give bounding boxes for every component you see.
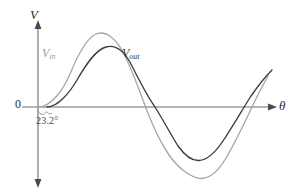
vertical-axis-label: V <box>30 8 38 21</box>
axis-arrow-down-icon <box>35 179 42 188</box>
phase-shift-brace <box>38 111 52 115</box>
series-label-vout-subscript: out <box>129 52 139 61</box>
curve-vout <box>47 46 272 160</box>
plot-canvas <box>0 0 295 195</box>
vertical-axis <box>35 20 42 188</box>
series-label-vout: Vout <box>122 47 139 59</box>
phase-shift-waveform-figure: V θ 0 Vin Vout 23.2° <box>0 0 295 195</box>
phase-shift-annotation: 23.2° <box>36 116 59 126</box>
horizontal-axis <box>22 103 277 110</box>
origin-label: 0 <box>15 98 21 110</box>
horizontal-axis-label: θ <box>279 99 285 112</box>
axis-arrow-right-icon <box>268 103 277 110</box>
series-label-vin: Vin <box>42 47 56 59</box>
series-label-vin-subscript: in <box>49 52 55 61</box>
curve-vin <box>38 33 268 178</box>
